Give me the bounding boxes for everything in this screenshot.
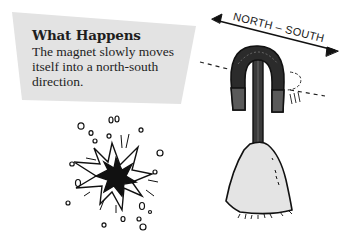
rotation-icon [286, 72, 301, 104]
info-panel: What Happens The magnet slowly moves its… [32, 27, 202, 89]
info-panel-title: What Happens [32, 27, 202, 43]
starburst-icon [66, 116, 163, 230]
info-panel-body: The magnet slowly moves itself into a no… [32, 44, 182, 89]
clay-base [226, 142, 292, 219]
rod [253, 56, 263, 150]
